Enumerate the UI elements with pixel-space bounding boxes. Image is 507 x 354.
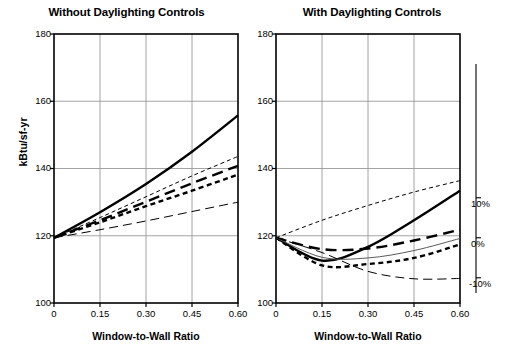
plot-area-right <box>253 0 507 354</box>
plot-area-left <box>0 0 253 354</box>
chart-panel-with-daylighting: With Daylighting Controls Window-to-Wall… <box>253 0 507 354</box>
figure-root: Without Daylighting Controls kBtu/sf-yr … <box>0 0 507 354</box>
chart-panel-without-daylighting: Without Daylighting Controls kBtu/sf-yr … <box>0 0 253 354</box>
